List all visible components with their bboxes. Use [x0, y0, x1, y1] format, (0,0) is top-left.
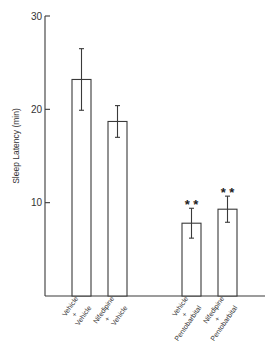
bars: * ** *	[72, 49, 237, 296]
x-tick-label: Nifedipine+Vehicle	[92, 295, 129, 334]
x-tick-label: Nifedipine+Pentobarbital	[196, 295, 239, 342]
bar	[108, 121, 127, 296]
y-axis-label: Sleep Latency (min)	[11, 108, 21, 184]
x-tick-label-line: Vehicle	[110, 304, 129, 327]
bar-chart: 102030 * ** * Vehicle+VehicleNifedipine+…	[0, 0, 278, 348]
bar	[72, 79, 91, 296]
y-tick-label: 20	[31, 104, 43, 115]
y-tick-label: 10	[31, 197, 43, 208]
x-tick-label: Vehicle+Vehicle	[61, 295, 93, 327]
x-tick-label: Vehicle+Pentobarbital	[160, 295, 203, 342]
y-tick-label: 30	[31, 11, 43, 22]
y-axis: 102030	[31, 11, 50, 297]
x-tick-labels: Vehicle+VehicleNifedipine+VehicleVehicle…	[61, 295, 239, 342]
significance-marker: * *	[221, 185, 236, 200]
significance-marker: * *	[185, 197, 200, 212]
